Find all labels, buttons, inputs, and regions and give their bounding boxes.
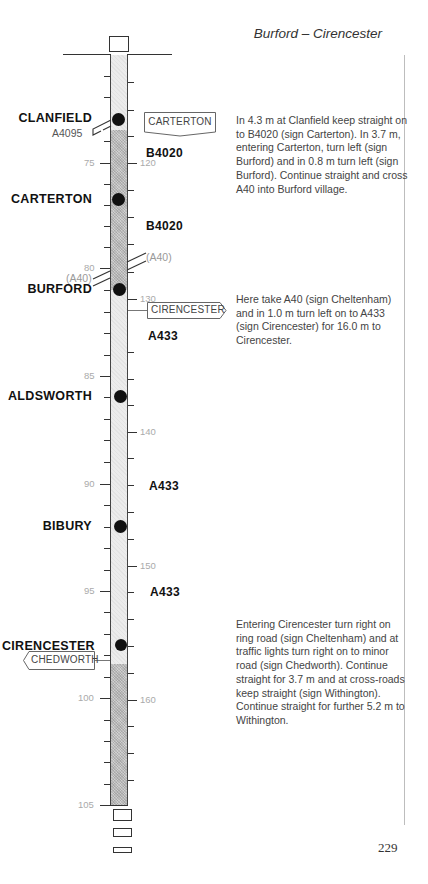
- town-name-aldsworth: ALDSWORTH: [4, 389, 92, 403]
- mile-label: 85: [84, 370, 95, 381]
- town-marker-aldsworth: [114, 390, 127, 403]
- route-start-box: [109, 36, 129, 52]
- continuation-box: [113, 828, 132, 837]
- km-tick-120: [128, 163, 137, 164]
- road-label-b4020: B4020: [146, 146, 183, 160]
- mile-label: 75: [84, 157, 95, 168]
- road-label-a433: A433: [149, 479, 179, 493]
- crossing-road-a40-left: [92, 270, 112, 292]
- town-marker-bibury: [114, 520, 127, 533]
- town-name-carterton: CARTERTON: [4, 192, 92, 206]
- km-label: 140: [140, 426, 156, 437]
- km-label: 150: [140, 560, 156, 571]
- km-tick-150: [128, 566, 137, 567]
- town-name-bibury: BIBURY: [10, 519, 92, 533]
- road-segment-minor-chedworth: [110, 664, 128, 806]
- mile-tick-100: [100, 698, 110, 699]
- continuation-box: [113, 809, 132, 821]
- strip-end-line: [110, 805, 128, 806]
- continuation-box: [113, 847, 132, 853]
- mile-tick-95: [100, 591, 110, 592]
- road-label-a40-left: (A40): [66, 272, 92, 284]
- km-tick-140: [128, 432, 137, 433]
- town-marker-carterton: [112, 193, 125, 206]
- mile-tick-105: [100, 805, 110, 806]
- road-label-a40-right: (A40): [146, 251, 172, 263]
- km-label: 160: [140, 694, 156, 705]
- road-label-b4020: B4020: [146, 219, 183, 233]
- mile-label: 95: [84, 585, 95, 596]
- town-name-clanfield: CLANFIELD: [10, 111, 92, 125]
- mile-tick-85: [100, 376, 110, 377]
- road-segment-a433: [110, 290, 128, 664]
- directions-paragraph-3: Entering Cirencester turn right on ring …: [236, 618, 408, 728]
- road-label-a433: A433: [150, 585, 180, 599]
- directions-paragraph-2: Here take A40 (sign Cheltenham) and in 1…: [236, 293, 408, 348]
- directions-paragraph-1: In 4.3 m at Clanfield keep straight on t…: [236, 114, 408, 196]
- crossroad-line-left: [63, 54, 111, 55]
- town-name-burford: BURFORD: [10, 282, 92, 296]
- mile-label: 105: [78, 799, 94, 810]
- crossroad-line-right: [127, 54, 172, 55]
- side-road-a4095: [90, 118, 114, 138]
- road-label-a4095: A4095: [52, 127, 82, 139]
- town-marker-cirencester: [115, 639, 127, 651]
- sign-connector-line: [128, 310, 148, 311]
- page-number: 229: [378, 840, 398, 856]
- mile-label: 100: [78, 692, 94, 703]
- town-marker-burford: [113, 283, 126, 296]
- mile-tick-75: [100, 163, 110, 164]
- crossing-road-a40-right: [126, 252, 148, 272]
- road-label-a433: A433: [148, 329, 178, 343]
- mile-tick-90: [100, 484, 110, 485]
- km-tick-130: [128, 299, 137, 300]
- page-title: Burford – Cirencester: [232, 26, 382, 41]
- km-tick-160: [128, 700, 137, 701]
- mile-label: 90: [84, 478, 95, 489]
